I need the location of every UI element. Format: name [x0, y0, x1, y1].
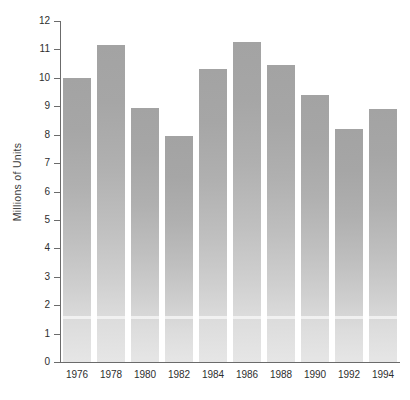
- y-axis-tick-label: 2: [44, 298, 50, 312]
- bar-slot: [369, 21, 396, 362]
- y-axis-title: Millions of Units: [0, 0, 34, 364]
- bar-slot: [63, 21, 90, 362]
- y-axis-tick-label: 4: [44, 241, 50, 255]
- x-axis-tick-label: 1978: [94, 368, 128, 382]
- y-axis-tick-label: 7: [44, 156, 50, 170]
- bars-layer: [60, 21, 400, 362]
- y-axis-title-text: Millions of Units: [11, 143, 23, 222]
- x-axis-line: [60, 362, 400, 363]
- bar-slot: [199, 21, 226, 362]
- x-axis-tick-label: 1982: [162, 368, 196, 382]
- x-axis-tick-label: 1992: [332, 368, 366, 382]
- y-axis-tick-label: 9: [44, 99, 50, 113]
- bar-gradient-band: [165, 316, 192, 319]
- bar[interactable]: [267, 65, 294, 362]
- x-axis-tick-label: 1980: [128, 368, 162, 382]
- bar-slot: [335, 21, 362, 362]
- bar[interactable]: [369, 109, 396, 362]
- bar-gradient-band: [233, 316, 260, 319]
- x-axis-tick-label: 1994: [366, 368, 400, 382]
- bar[interactable]: [301, 95, 328, 362]
- bar-chart: Millions of Units 0123456789101112 19761…: [0, 0, 410, 400]
- y-axis-tick-label: 12: [39, 14, 50, 28]
- y-axis-tick-label: 10: [39, 71, 50, 85]
- y-axis-tick-label: 6: [44, 185, 50, 199]
- bar-slot: [131, 21, 158, 362]
- y-axis-tick-label: 0: [44, 355, 50, 369]
- bar-slot: [301, 21, 328, 362]
- bar-gradient-band: [301, 316, 328, 319]
- y-axis-tick-label: 11: [40, 42, 50, 56]
- bar-gradient-band: [335, 316, 362, 319]
- bar-gradient-band: [267, 316, 294, 319]
- bar[interactable]: [233, 42, 260, 362]
- y-axis-tick-mark: [54, 362, 60, 363]
- bar[interactable]: [131, 108, 158, 362]
- x-axis-tick-label: 1988: [264, 368, 298, 382]
- y-axis-tick-label: 3: [44, 270, 50, 284]
- bar-gradient-band: [63, 316, 90, 319]
- x-axis-tick-label: 1976: [60, 368, 94, 382]
- y-axis-tick-label: 8: [44, 128, 50, 142]
- x-axis-tick-label: 1984: [196, 368, 230, 382]
- plot-area: 0123456789101112: [60, 21, 400, 363]
- x-axis-tick-labels: 1976197819801982198419861988199019921994: [60, 368, 400, 388]
- bar-slot: [233, 21, 260, 362]
- bar[interactable]: [165, 136, 192, 362]
- y-axis-tick-label: 1: [44, 327, 50, 341]
- bar-slot: [267, 21, 294, 362]
- x-axis-tick-label: 1986: [230, 368, 264, 382]
- y-axis-tick-label: 5: [44, 213, 50, 227]
- bar-slot: [165, 21, 192, 362]
- bar-gradient-band: [369, 316, 396, 319]
- bar-gradient-band: [199, 316, 226, 319]
- bar[interactable]: [335, 129, 362, 362]
- bar[interactable]: [63, 78, 90, 362]
- bar-gradient-band: [97, 316, 124, 319]
- x-axis-tick-label: 1990: [298, 368, 332, 382]
- bar-gradient-band: [131, 316, 158, 319]
- bar-slot: [97, 21, 124, 362]
- bar[interactable]: [199, 69, 226, 362]
- bar[interactable]: [97, 45, 124, 362]
